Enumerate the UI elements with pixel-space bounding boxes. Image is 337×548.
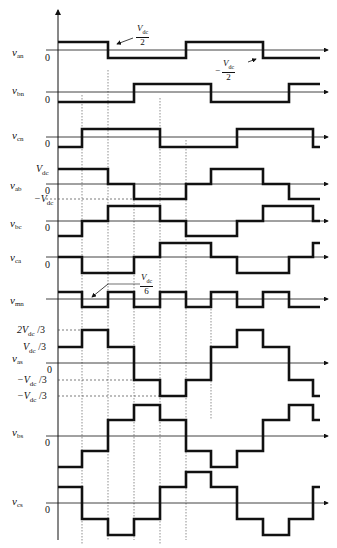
neg-vdc-label: −Vdc [34, 194, 53, 208]
label-vbs: vbs [12, 427, 23, 442]
waveforms [58, 42, 320, 535]
neg-vdc-3-label-1: −Vdc /3 [17, 375, 47, 389]
zero-vbn: 0 [45, 95, 50, 105]
vdc-sixth-arrow [92, 284, 108, 297]
vdc-3-label: Vdc /3 [23, 342, 46, 356]
label-vca: vca [10, 252, 21, 267]
zero-vca: 0 [45, 260, 50, 270]
label-vas: vas [12, 353, 23, 368]
zero-van: 0 [45, 53, 50, 63]
vdc-label: Vdc [36, 164, 49, 178]
label-vcn: vcn [12, 130, 24, 145]
zero-vcn: 0 [45, 139, 50, 149]
neg-vdc-half-arrow [248, 59, 256, 62]
vdc-half-arrow [117, 38, 133, 44]
zero-vbc: 0 [45, 223, 50, 233]
wave-vcn [58, 129, 320, 147]
label-vbc: vbc [10, 218, 22, 233]
wave-vbn [58, 84, 320, 102]
wave-vmn [58, 292, 320, 307]
neg-vdc-half-annotation: − Vdc 2 [222, 59, 235, 82]
neg-vdc-3-label-2: −Vdc /3 [17, 391, 47, 405]
label-vmn: vmn [10, 295, 24, 310]
waveform-diagram [0, 0, 337, 548]
zero-vbs: 0 [45, 438, 50, 448]
label-vbn: vbn [12, 85, 24, 100]
wave-vca [58, 243, 320, 273]
label-van: van [12, 47, 24, 62]
vdc-sixth-annotation: Vdc 6 [140, 273, 153, 296]
zero-vas: 0 [47, 365, 52, 375]
vdc-half-annotation: Vdc 2 [136, 24, 149, 47]
zero-vcs: 0 [45, 505, 50, 515]
wave-vcs [58, 472, 320, 535]
label-vab: vab [10, 180, 22, 195]
label-vcs: vcs [12, 496, 23, 511]
two-vdc-3-label: 2Vdc /3 [17, 325, 45, 339]
